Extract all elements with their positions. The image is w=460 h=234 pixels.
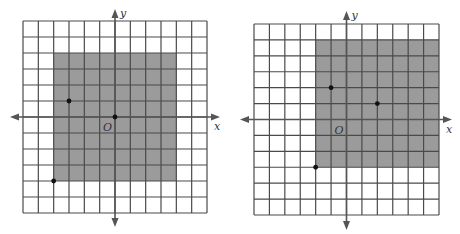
arrow-left-icon: [240, 116, 249, 123]
arrow-down-icon: [343, 221, 350, 230]
plotted-point: [329, 85, 334, 90]
x-axis-label: x: [446, 123, 453, 136]
y-axis-label: y: [351, 9, 359, 22]
origin-label: O: [335, 124, 344, 137]
plotted-point: [313, 165, 318, 170]
plotted-point: [375, 101, 380, 106]
arrow-up-icon: [343, 11, 350, 20]
coordinate-grid-right: xyO: [0, 0, 460, 234]
